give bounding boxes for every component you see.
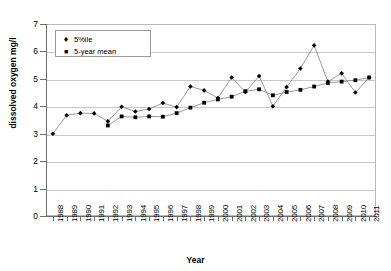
x-tick-label: 1995 (152, 205, 161, 222)
x-tick (369, 217, 370, 221)
x-tick (67, 217, 68, 221)
x-tick (149, 217, 150, 221)
dissolved-oxygen-line-chart: 01234567 dissolved oxygen mg/l 198819891… (0, 0, 391, 271)
x-tick (108, 217, 109, 221)
legend-item-5pctile: ♦ 5%ile (61, 34, 145, 44)
y-tick (40, 189, 46, 190)
x-tick-label: 1997 (180, 205, 189, 222)
y-tick-label: 2 (26, 157, 38, 165)
x-tick (218, 217, 219, 221)
x-tick (80, 217, 81, 221)
y-tick (40, 79, 46, 80)
x-tick-label: 2002 (249, 205, 258, 222)
x-tick (53, 217, 54, 221)
y-tick-label: 7 (26, 20, 38, 28)
x-tick-label: 1991 (97, 205, 106, 222)
x-tick-label: 2007 (317, 205, 326, 222)
x-tick (122, 217, 123, 221)
y-tick-label: 5 (26, 75, 38, 83)
y-axis-title: dissolved oxygen mg/l (8, 18, 18, 148)
x-tick-label: 2006 (304, 205, 313, 222)
x-tick (328, 217, 329, 221)
x-tick-label: 2003 (262, 205, 271, 222)
x-tick-label: 1988 (56, 205, 65, 222)
y-tick (40, 134, 46, 135)
x-tick-label: 2000 (221, 205, 230, 222)
gridline (47, 80, 375, 81)
x-tick (355, 217, 356, 221)
x-tick (300, 217, 301, 221)
x-tick (273, 217, 274, 221)
x-tick (259, 217, 260, 221)
x-tick (177, 217, 178, 221)
gridline (47, 162, 375, 163)
y-tick (40, 51, 46, 52)
x-tick (163, 217, 164, 221)
square-marker-icon: ■ (61, 47, 71, 56)
y-tick-label: 3 (26, 130, 38, 138)
x-tick (204, 217, 205, 221)
x-tick-label: 2005 (290, 205, 299, 222)
gridline (47, 190, 375, 191)
y-tick-label: 6 (26, 47, 38, 55)
x-tick-label: 2009 (345, 205, 354, 222)
y-tick (40, 161, 46, 162)
legend-label-5year-mean: 5-year mean (74, 47, 116, 56)
chart-legend: ♦ 5%ile ■ 5-year mean (55, 30, 151, 57)
x-tick-label: 1999 (207, 205, 216, 222)
x-tick-label: 1994 (139, 205, 148, 222)
gridline (47, 107, 375, 108)
x-axis-title: Year (0, 255, 391, 265)
y-tick (40, 24, 46, 25)
diamond-marker-icon: ♦ (61, 35, 71, 44)
y-tick-label: 1 (26, 185, 38, 193)
x-tick (287, 217, 288, 221)
legend-item-5year-mean: ■ 5-year mean (61, 46, 145, 56)
y-tick-label: 0 (26, 212, 38, 220)
x-tick (245, 217, 246, 221)
y-axis-line (46, 24, 47, 217)
y-tick (40, 106, 46, 107)
gridline (47, 135, 375, 136)
x-tick-label: 2011 (372, 206, 381, 222)
x-tick-label: 2010 (359, 205, 368, 222)
x-tick-label: 2004 (276, 205, 285, 222)
x-tick (135, 217, 136, 221)
x-tick-label: 1998 (194, 205, 203, 222)
x-tick-label: 2008 (331, 205, 340, 222)
x-tick (190, 217, 191, 221)
x-tick-label: 1990 (84, 205, 93, 222)
y-tick-label: 4 (26, 102, 38, 110)
x-tick (314, 217, 315, 221)
x-tick (94, 217, 95, 221)
x-tick-label: 1996 (166, 205, 175, 222)
x-tick-label: 1993 (125, 205, 134, 222)
x-tick-label: 1992 (111, 205, 120, 222)
x-tick-label: 2001 (235, 205, 244, 222)
x-tick-label: 1989 (70, 205, 79, 222)
x-tick (232, 217, 233, 221)
legend-label-5pctile: 5%ile (74, 35, 92, 44)
x-tick (342, 217, 343, 221)
